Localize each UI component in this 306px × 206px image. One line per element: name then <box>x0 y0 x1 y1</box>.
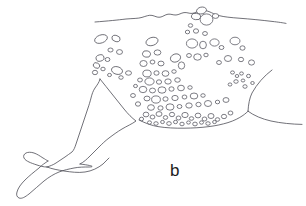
barnacle-outline <box>176 116 181 120</box>
barnacle-outline <box>163 97 168 101</box>
barnacle-outline <box>163 116 167 120</box>
barnacle-outline <box>223 98 229 103</box>
barnacle-outline <box>174 120 178 123</box>
barnacle-outline <box>204 53 208 57</box>
barnacle-outline <box>241 79 245 82</box>
barnacle-outline <box>158 61 164 66</box>
barnacle-outline <box>150 88 156 93</box>
barnacle-outline <box>187 121 191 124</box>
barnacle-outline <box>200 121 204 124</box>
barnacle-outline <box>154 71 159 75</box>
barnacle-outline <box>143 112 149 117</box>
barnacle-outline <box>193 122 198 126</box>
barnacle-outline <box>148 105 155 111</box>
barnacle-outline <box>238 57 243 61</box>
barnacle-outline <box>206 122 210 126</box>
barnacle-outline <box>140 61 147 67</box>
barnacle-outline <box>201 94 205 98</box>
barnacle-outline <box>150 115 155 119</box>
barnacle-outline <box>208 114 214 119</box>
barnacle-outline <box>169 112 174 116</box>
barnacle-outline <box>187 54 192 58</box>
barnacle-outline <box>193 29 198 33</box>
canvas-background <box>0 0 306 206</box>
barnacle-outline <box>119 76 123 80</box>
barnacle-outline <box>224 56 231 62</box>
barnacle-outline <box>158 87 166 93</box>
barnacle-outline <box>203 32 208 36</box>
barnacle-outline <box>152 96 161 103</box>
barnacle-outline <box>175 78 181 82</box>
barnacle-outline <box>251 82 255 85</box>
barnacle-outline <box>101 67 105 71</box>
barnacle-outline <box>144 96 150 101</box>
barnacle-outline <box>178 85 185 91</box>
barnacle-outline <box>139 86 147 92</box>
barnacle-outline <box>161 120 165 123</box>
line-drawing-canvas <box>0 0 306 206</box>
barnacle-outline <box>139 117 143 121</box>
barnacle-outline <box>145 78 154 85</box>
barnacle-outline <box>189 117 193 121</box>
barnacle-outline <box>231 71 235 74</box>
barnacle-outline <box>108 48 113 52</box>
barnacle-outline <box>200 41 207 49</box>
barnacle-outline <box>185 30 189 34</box>
barnacle-outline <box>169 87 174 91</box>
barnacle-outline <box>156 112 162 117</box>
barnacle-outline <box>195 113 201 118</box>
barnacle-outline <box>117 50 123 55</box>
barnacle-outline <box>188 86 192 90</box>
barnacle-outline <box>240 72 244 75</box>
barnacle-outline <box>178 62 184 69</box>
barnacle-outline <box>204 101 211 107</box>
barnacle-outline <box>148 121 152 124</box>
barnacle-outline <box>215 100 219 104</box>
barnacle-outline <box>105 58 110 62</box>
barnacle-outline <box>156 80 161 84</box>
barnacle-outline <box>172 95 178 100</box>
barnacle-outline <box>194 54 202 60</box>
barnacle-outline <box>228 83 232 86</box>
barnacle-outline <box>243 85 247 89</box>
barnacle-outline <box>165 79 171 84</box>
barnacle-outline <box>158 106 163 110</box>
barnacle-outline <box>247 74 251 77</box>
panel-label-b: b <box>170 162 179 179</box>
barnacle-outline <box>150 60 155 64</box>
barnacle-outline <box>172 70 176 74</box>
barnacle-outline <box>180 122 184 126</box>
barnacle-outline <box>221 114 226 118</box>
barnacle-outline <box>126 71 132 75</box>
barnacle-outline <box>182 112 188 117</box>
barnacle-outline <box>196 102 201 106</box>
barnacle-outline <box>138 78 143 82</box>
barnacle-outline <box>210 39 219 46</box>
barnacle-outline <box>182 95 187 99</box>
figure-panel-b: b <box>0 0 306 206</box>
barnacle-outline <box>135 102 140 106</box>
barnacle-outline <box>154 122 158 126</box>
barnacle-outline <box>235 75 239 78</box>
barnacle-outline <box>230 37 240 45</box>
barnacle-outline <box>92 70 97 74</box>
barnacle-outline <box>212 14 218 19</box>
barnacle-outline <box>200 14 213 25</box>
barnacle-outline <box>190 93 198 99</box>
barnacle-outline <box>167 122 172 126</box>
barnacle-outline <box>134 84 138 87</box>
barnacle-outline <box>202 117 207 121</box>
barnacle-outline <box>234 80 238 84</box>
barnacle-outline <box>249 60 255 65</box>
barnacle-outline <box>154 50 161 55</box>
barnacle-outline <box>217 61 222 65</box>
barnacle-outline <box>186 39 197 48</box>
barnacle-outline <box>108 73 112 76</box>
barnacle-outline <box>213 120 217 123</box>
barnacle-outline <box>143 70 151 77</box>
barnacle-outline <box>240 46 245 50</box>
barnacle-outline <box>166 104 174 110</box>
barnacle-outline <box>131 94 136 98</box>
barnacle-outline <box>219 46 224 50</box>
barnacle-outline <box>188 24 192 28</box>
